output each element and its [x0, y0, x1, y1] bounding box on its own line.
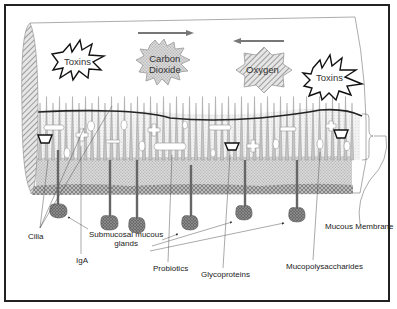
submucosal-line1: Submucosal mucous — [89, 230, 163, 239]
toxins-right-label: Toxins — [316, 72, 343, 83]
submucosal-line2: glands — [89, 239, 163, 248]
glycoproteins-label: Glycoproteins — [201, 270, 250, 279]
oxygen-label: Oxygen — [246, 64, 279, 75]
toxins-left-label: Toxins — [64, 56, 91, 67]
carbon-dioxide-line2: Dioxide — [149, 64, 181, 75]
probiotics-label: Probiotics — [153, 264, 188, 273]
carbon-dioxide-label: Carbon Dioxide — [149, 53, 181, 75]
basement-membrane — [32, 184, 353, 195]
left-end-cap — [22, 23, 38, 194]
iga-label: IgA — [76, 256, 88, 265]
mucopolysaccharides-label: Mucopolysaccharides — [286, 262, 363, 271]
mucous-membrane-label: Mucous Membrane — [325, 222, 393, 231]
carbon-dioxide-line1: Carbon — [149, 53, 181, 64]
gas-exchange-arrows — [138, 30, 284, 44]
submucosal-glands-label: Submucosal mucous glands — [89, 230, 163, 248]
cilia-label: Cilia — [28, 232, 44, 241]
